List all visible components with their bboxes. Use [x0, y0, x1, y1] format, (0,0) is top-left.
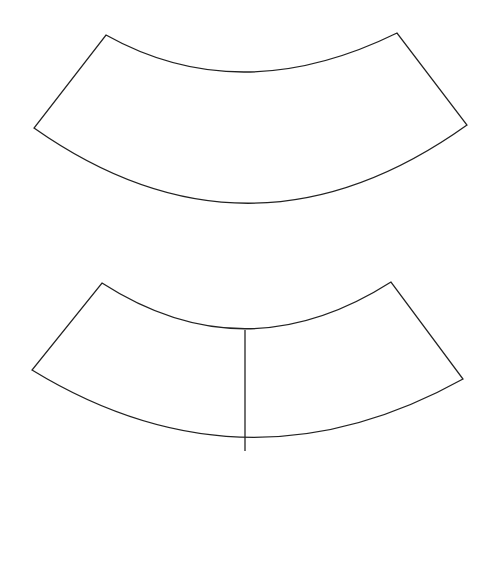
panel-b-shape	[32, 282, 463, 451]
panel-b-outline	[32, 282, 463, 437]
panel-a-shape	[34, 33, 467, 203]
panel-a-outline	[34, 33, 467, 203]
figure-92-diagram	[0, 0, 489, 577]
